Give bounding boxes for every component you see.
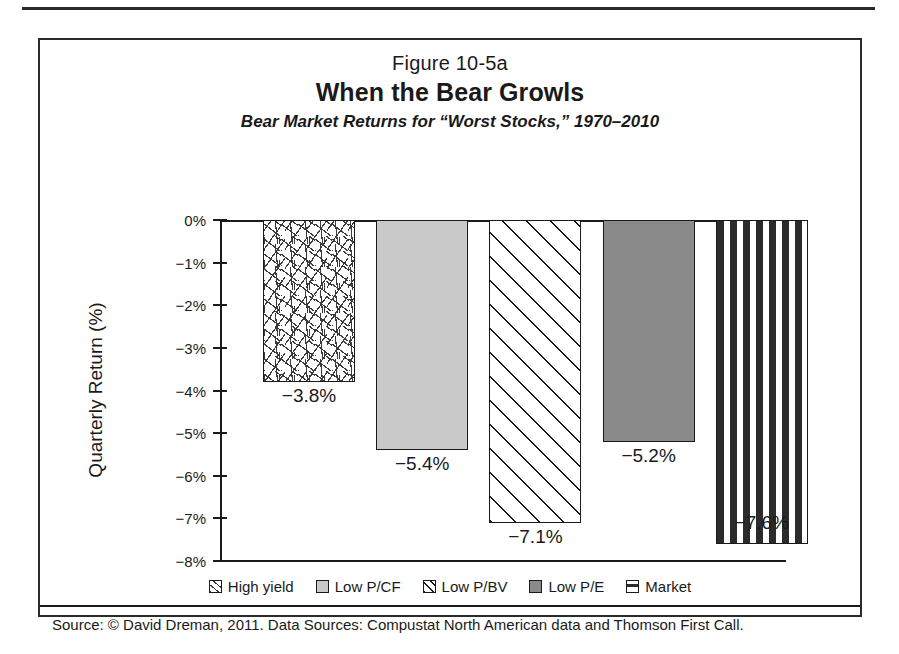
figure-title: When the Bear Growls [40,76,860,108]
page-top-rule [22,7,875,10]
bar-high-yield[interactable] [263,220,355,382]
y-axis-tick [213,517,227,519]
legend-swatch-icon [626,580,639,593]
y-tick-label: 0% [184,212,206,229]
y-axis-tick [213,560,227,562]
y-tick-label: −8% [176,553,206,570]
y-axis-tick [213,475,227,477]
y-tick-label: −4% [176,382,206,399]
y-axis-tick [213,304,227,306]
legend-item-market[interactable]: Market [626,578,691,595]
source-divider [40,605,860,607]
legend-label: Low P/BV [442,578,508,595]
y-tick-label: −2% [176,297,206,314]
y-axis-tick [213,390,227,392]
legend-swatch-icon [423,580,436,593]
legend-label: Low P/CF [335,578,401,595]
y-tick-label: −7% [176,510,206,527]
bar-value-label: −5.4% [395,453,449,475]
bar-value-label: −3.8% [282,385,336,407]
legend-label: Market [645,578,691,595]
y-axis-tick [213,432,227,434]
y-axis-tick [213,262,227,264]
bar-low-p-e[interactable] [603,220,695,442]
figure-number: Figure 10-5a [40,50,860,76]
chart-legend: High yieldLow P/CFLow P/BVLow P/EMarket [40,578,860,595]
figure-heading-block: Figure 10-5a When the Bear Growls Bear M… [40,50,860,135]
bar-value-label: −7.6% [735,512,789,534]
legend-item-low-p-cf[interactable]: Low P/CF [316,578,401,595]
bar-market[interactable] [716,220,808,544]
y-axis-tick-labels: 0%−1%−2%−3%−4%−5%−6%−7%−8% [40,220,220,561]
bar-value-label: −7.1% [508,526,562,548]
figure-subtitle: Bear Market Returns for “Worst Stocks,” … [40,109,860,135]
legend-swatch-icon [316,580,329,593]
y-axis-tick [213,347,227,349]
legend-label: Low P/E [548,578,604,595]
x-axis-line [220,560,786,562]
figure-frame: Figure 10-5a When the Bear Growls Bear M… [38,38,862,617]
plot-area: −3.8%−5.4%−7.1%−5.2%−7.6% [220,220,786,561]
bar-low-p-bv[interactable] [489,220,581,523]
bar-low-p-cf[interactable] [376,220,468,450]
legend-item-high-yield[interactable]: High yield [209,578,294,595]
y-tick-label: −3% [176,339,206,356]
y-tick-label: −1% [176,254,206,271]
legend-swatch-icon [529,580,542,593]
legend-item-low-p-bv[interactable]: Low P/BV [423,578,508,595]
bar-value-label: −5.2% [621,445,675,467]
legend-swatch-icon [209,580,222,593]
y-axis-tick [213,219,227,221]
y-tick-label: −6% [176,467,206,484]
legend-item-low-p-e[interactable]: Low P/E [529,578,604,595]
source-note: Source: © David Dreman, 2011. Data Sourc… [52,615,848,635]
legend-label: High yield [228,578,294,595]
y-tick-label: −5% [176,425,206,442]
